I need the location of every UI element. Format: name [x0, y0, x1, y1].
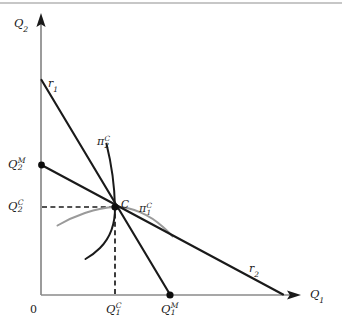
tick-label-q2c: Q C 2	[8, 200, 23, 213]
tick-q2c-main: Q	[8, 199, 17, 213]
pi1-main: π	[139, 202, 146, 215]
x-axis-label: Q1	[310, 289, 324, 303]
y-axis-label-sub: 2	[23, 25, 28, 34]
pi2-sub: 2	[104, 143, 109, 149]
pi1-sub: 1	[146, 210, 151, 216]
label-reaction-function-r1: r1	[48, 78, 58, 92]
axes-group	[36, 13, 301, 300]
origin-label: 0	[30, 304, 37, 315]
tick-q1m-main: Q	[161, 302, 170, 316]
guide-lines-group	[42, 207, 115, 294]
tick-q2m-sub: 2	[18, 165, 23, 172]
tick-label-q1c: Q C 1	[106, 303, 121, 316]
point-cournot-equilibrium	[111, 203, 118, 210]
tick-q1m-sub: 1	[171, 310, 176, 317]
tick-q1c-sub: 1	[116, 310, 121, 317]
tick-q2m-scripts: M 2	[18, 158, 26, 171]
tick-label-q2m: Q M 2	[8, 158, 25, 171]
point-monopoly-output-firm2	[38, 162, 45, 169]
diagram-canvas	[0, 0, 342, 327]
cournot-diagram-figure: Q2 Q1 0 Q M 2 Q C 2 Q C 1 Q M 1 r1	[0, 0, 342, 327]
label-isoprofit-firm2: π C 2	[97, 136, 110, 149]
pi1-scripts: C 1	[146, 203, 152, 216]
tick-q2m-main: Q	[8, 157, 17, 171]
tick-q1c-scripts: C 1	[116, 303, 122, 316]
tick-label-q1m: Q M 1	[161, 303, 178, 316]
tick-q1m-scripts: M 1	[171, 303, 179, 316]
r1-sub: 1	[53, 85, 58, 94]
label-isoprofit-firm1: π C 1	[139, 203, 152, 216]
x-axis-label-sub: 1	[319, 296, 324, 305]
label-point-c: C	[121, 199, 129, 210]
r2-sub: 2	[254, 270, 259, 279]
tick-q2c-sub: 2	[18, 207, 23, 214]
tick-q2c-scripts: C 2	[18, 200, 24, 213]
label-reaction-function-r2: r2	[249, 263, 259, 277]
reaction-function-r2-line	[42, 165, 284, 295]
point-monopoly-output-firm1	[166, 291, 173, 298]
reaction-function-r1-line	[42, 80, 171, 295]
y-axis-label: Q2	[14, 18, 28, 32]
tick-q1c-main: Q	[106, 302, 115, 316]
pi2-scripts: C 2	[104, 136, 110, 149]
